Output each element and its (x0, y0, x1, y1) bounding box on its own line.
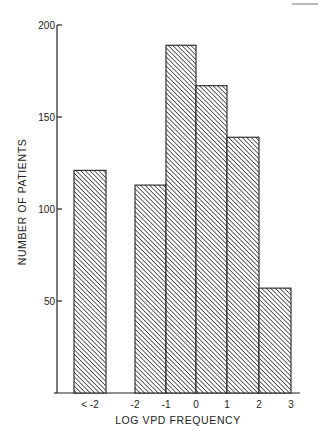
x-tick-label: 3 (288, 399, 294, 410)
bar-bin-2-to-3 (259, 288, 291, 393)
bar-below-minus-2 (74, 170, 106, 393)
bar-bin-0-to-1 (196, 86, 227, 393)
y-axis: 50100150200 (38, 20, 62, 394)
y-axis-title: NUMBER OF PATIENTS (16, 139, 28, 266)
x-tick-label: 2 (256, 399, 262, 410)
y-tick-label: 150 (38, 112, 55, 123)
x-axis-title: LOG VPD FREQUENCY (115, 414, 241, 426)
bar-bin--1-to-0 (166, 45, 196, 393)
y-tick-label: 100 (38, 204, 55, 215)
x-tick-label: -2 (131, 399, 140, 410)
x-axis: < -2-2-10123 (57, 393, 300, 410)
x-tick-label: 0 (193, 399, 199, 410)
y-tick-label: 200 (38, 20, 55, 31)
bars-group (74, 45, 291, 393)
bar-bin--2-to--1 (135, 185, 166, 393)
x-tick-label: < -2 (81, 399, 99, 410)
bar-bin-1-to-2 (227, 137, 259, 393)
histogram-chart: 50100150200 < -2-2-10123 NUMBER OF PATIE… (0, 0, 320, 437)
x-tick-label: -1 (162, 399, 171, 410)
x-tick-label: 1 (224, 399, 230, 410)
y-tick-label: 50 (44, 296, 56, 307)
